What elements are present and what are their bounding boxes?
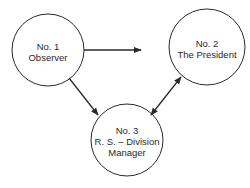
node-2-number: No. 2	[177, 38, 236, 49]
node-1-number: No. 1	[28, 41, 67, 52]
arrow-observer-to-division-manager	[69, 78, 98, 115]
node-label-1: No. 1 Observer	[28, 41, 67, 63]
node-1-title: Observer	[28, 52, 67, 63]
node-3-title-line2: Manager	[95, 147, 160, 158]
node-3-title-line1: R. S. – Division	[95, 136, 160, 147]
node-label-2: No. 2 The President	[177, 38, 236, 60]
node-label-3: No. 3 R. S. – Division Manager	[95, 125, 160, 158]
node-2-title: The President	[177, 49, 236, 60]
node-3-number: No. 3	[95, 125, 160, 136]
arrow-division-manager-president-bidirectional	[151, 77, 181, 115]
diagram-canvas	[0, 0, 250, 188]
